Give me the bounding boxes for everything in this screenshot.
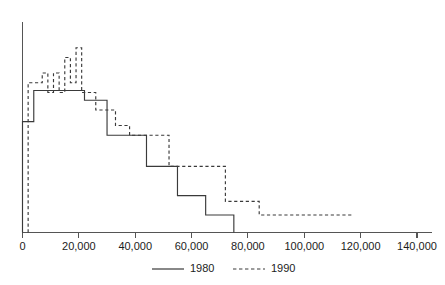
- x-tick-label: 120,000: [341, 240, 381, 252]
- chart-figure: 020,00040,00060,00080,000100,000120,0001…: [0, 0, 445, 285]
- x-tick-labels: 020,00040,00060,00080,000100,000120,0001…: [19, 240, 436, 252]
- x-tick-marks: [23, 233, 418, 238]
- x-tick-label: 80,000: [231, 240, 265, 252]
- legend-label-1990: 1990: [271, 262, 295, 274]
- axes-group: [23, 22, 433, 233]
- x-tick-label: 60,000: [175, 240, 209, 252]
- legend-label-1980: 1980: [190, 262, 214, 274]
- x-tick-label: 140,000: [397, 240, 437, 252]
- series-line-1980: [23, 91, 234, 233]
- chart-canvas: 020,00040,00060,00080,000100,000120,0001…: [0, 0, 445, 285]
- x-tick-label: 0: [19, 240, 25, 252]
- series-group: [23, 48, 353, 233]
- series-line-1990: [28, 48, 352, 233]
- x-tick-label: 40,000: [118, 240, 152, 252]
- x-tick-label: 100,000: [284, 240, 324, 252]
- chart-legend: 1980 1990: [152, 262, 295, 274]
- x-tick-label: 20,000: [62, 240, 96, 252]
